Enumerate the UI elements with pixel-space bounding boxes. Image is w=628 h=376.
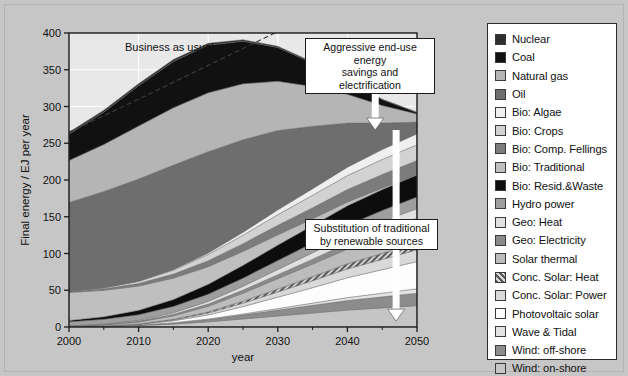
y-tick-label: 250 xyxy=(43,137,61,149)
legend-item[interactable]: Oil xyxy=(495,85,612,103)
x-tick-label: 2010 xyxy=(126,335,150,347)
legend-swatch xyxy=(495,235,506,246)
x-tick-label: 2030 xyxy=(266,335,290,347)
annotation-aggressive-savings: Aggressive end-use energy savings and el… xyxy=(305,38,435,94)
legend-swatch xyxy=(495,326,506,337)
annotation-agg-line2: savings and electrification xyxy=(310,66,430,91)
legend-item[interactable]: Bio: Comp. Fellings xyxy=(495,140,612,158)
y-tick-label: 0 xyxy=(55,321,61,333)
y-tick-label: 50 xyxy=(49,284,61,296)
annotation-agg-line1: Aggressive end-use energy xyxy=(310,41,430,66)
legend-label: Oil xyxy=(512,88,525,100)
y-axis-title: Final energy / EJ per year xyxy=(19,114,31,246)
legend-item[interactable]: Conc. Solar: Heat xyxy=(495,268,612,286)
legend-label: Bio: Crops xyxy=(512,125,563,137)
legend-label: Bio: Resid.&Waste xyxy=(512,180,603,192)
legend-label: Wind: off-shore xyxy=(512,344,586,356)
y-tick-label: 300 xyxy=(43,101,61,113)
legend-label: Photovoltaic solar xyxy=(512,308,599,320)
figure-root: 050100150200250300350400 200020102020203… xyxy=(0,0,628,376)
legend-label: Hydro power xyxy=(512,198,574,210)
legend-item[interactable]: Wave & Tidal xyxy=(495,323,612,341)
legend-swatch xyxy=(495,272,506,283)
legend-swatch xyxy=(495,290,506,301)
legend-label: Bio: Traditional xyxy=(512,161,584,173)
legend-label: Conc. Solar: Power xyxy=(512,289,607,301)
legend-swatch xyxy=(495,107,506,118)
legend-swatch xyxy=(495,34,506,45)
legend-item[interactable]: Geo: Electricity xyxy=(495,231,612,249)
legend-label: Geo: Electricity xyxy=(512,234,586,246)
x-axis-title: year xyxy=(232,351,255,363)
x-axis-ticks: 200020102020203020402050 xyxy=(57,327,429,347)
legend-label: Wave & Tidal xyxy=(512,326,576,338)
legend-item[interactable]: Solar thermal xyxy=(495,250,612,268)
legend-label: Coal xyxy=(512,51,535,63)
annotation-sub-line1: Substitution of traditional xyxy=(310,222,433,235)
x-tick-label: 2000 xyxy=(57,335,81,347)
chart-legend: NuclearCoalNatural gasOilBio: AlgaeBio: … xyxy=(487,23,617,360)
y-tick-label: 200 xyxy=(43,174,61,186)
legend-swatch xyxy=(495,253,506,264)
legend-swatch xyxy=(495,125,506,136)
legend-label: Wind: on-shore xyxy=(512,362,586,374)
x-tick-label: 2050 xyxy=(405,335,429,347)
legend-swatch xyxy=(495,52,506,63)
legend-item[interactable]: Photovoltaic solar xyxy=(495,304,612,322)
legend-item[interactable]: Bio: Resid.&Waste xyxy=(495,176,612,194)
legend-swatch xyxy=(495,180,506,191)
y-tick-label: 350 xyxy=(43,64,61,76)
x-tick-label: 2020 xyxy=(196,335,220,347)
legend-item[interactable]: Bio: Crops xyxy=(495,121,612,139)
y-tick-label: 150 xyxy=(43,211,61,223)
legend-item[interactable]: Conc. Solar: Power xyxy=(495,286,612,304)
legend-swatch xyxy=(495,89,506,100)
legend-item[interactable]: Hydro power xyxy=(495,195,612,213)
y-tick-label: 100 xyxy=(43,248,61,260)
y-axis-ticks: 050100150200250300350400 xyxy=(43,27,69,333)
legend-label: Nuclear xyxy=(512,33,550,45)
legend-item[interactable]: Bio: Traditional xyxy=(495,158,612,176)
legend-label: Solar thermal xyxy=(512,253,577,265)
legend-item[interactable]: Coal xyxy=(495,48,612,66)
legend-swatch xyxy=(495,162,506,173)
legend-swatch xyxy=(495,363,506,374)
legend-swatch xyxy=(495,143,506,154)
legend-item[interactable]: Wind: on-shore xyxy=(495,359,612,376)
chart-figure: 050100150200250300350400 200020102020203… xyxy=(4,4,624,372)
annotation-substitution: Substitution of traditional by renewable… xyxy=(305,219,438,250)
legend-label: Geo: Heat xyxy=(512,216,562,228)
legend-label: Natural gas xyxy=(512,70,568,82)
legend-item[interactable]: Nuclear xyxy=(495,30,612,48)
legend-swatch xyxy=(495,217,506,228)
legend-item[interactable]: Bio: Algae xyxy=(495,103,612,121)
annotation-business-as-usual: Business as usual xyxy=(125,41,214,54)
legend-item[interactable]: Natural gas xyxy=(495,67,612,85)
legend-label: Conc. Solar: Heat xyxy=(512,271,599,283)
legend-swatch xyxy=(495,198,506,209)
legend-swatch xyxy=(495,308,506,319)
legend-swatch xyxy=(495,70,506,81)
legend-item[interactable]: Geo: Heat xyxy=(495,213,612,231)
legend-item[interactable]: Wind: off-shore xyxy=(495,341,612,359)
legend-label: Bio: Algae xyxy=(512,106,561,118)
annotation-sub-line2: by renewable sources xyxy=(310,235,433,248)
legend-label: Bio: Comp. Fellings xyxy=(512,143,607,155)
x-tick-label: 2040 xyxy=(335,335,359,347)
legend-swatch xyxy=(495,345,506,356)
y-tick-label: 400 xyxy=(43,27,61,39)
